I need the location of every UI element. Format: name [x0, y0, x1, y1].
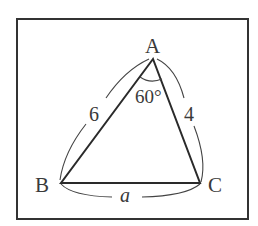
brace-bc-right — [142, 184, 200, 197]
side-ab-label: 6 — [89, 103, 99, 125]
vertex-c-label: C — [208, 173, 222, 197]
brace-bc-left — [61, 184, 112, 197]
triangle-diagram: A B C 6 4 a 60° — [0, 0, 258, 226]
vertex-b-label: B — [35, 173, 49, 197]
side-bc-label: a — [120, 184, 130, 206]
side-ac-label: 4 — [184, 103, 194, 125]
angle-a-arc — [140, 77, 162, 81]
brace-ab-lower — [60, 124, 86, 180]
triangle-abc — [61, 59, 200, 183]
brace-ac-lower — [194, 126, 203, 182]
angle-a-label: 60° — [135, 86, 162, 107]
vertex-a-label: A — [145, 34, 161, 58]
